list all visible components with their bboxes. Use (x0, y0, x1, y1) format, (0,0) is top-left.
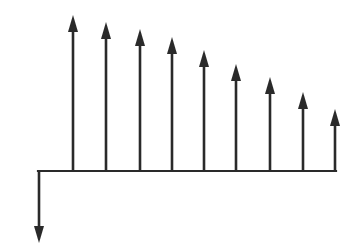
arrow-up-icon (135, 29, 145, 46)
outflow-arrow (34, 171, 44, 243)
arrow-up-icon (68, 15, 78, 32)
inflow-arrow (298, 92, 308, 171)
arrow-up-icon (298, 92, 308, 109)
diagram-canvas (0, 0, 360, 252)
inflow-arrow (265, 77, 275, 171)
arrow-up-icon (199, 50, 209, 67)
inflow-arrow (135, 29, 145, 171)
inflow-arrow (167, 37, 177, 171)
inflow-arrow (68, 15, 78, 171)
arrow-up-icon (101, 22, 111, 39)
inflow-arrow (330, 109, 340, 171)
inflow-arrow (231, 64, 241, 171)
inflow-arrows (68, 15, 340, 171)
arrow-up-icon (167, 37, 177, 54)
arrow-up-icon (330, 109, 340, 126)
inflow-arrow (199, 50, 209, 171)
arrow-up-icon (265, 77, 275, 94)
arrow-down-icon (34, 226, 44, 243)
cash-flow-diagram (0, 0, 360, 252)
arrow-up-icon (231, 64, 241, 81)
inflow-arrow (101, 22, 111, 171)
